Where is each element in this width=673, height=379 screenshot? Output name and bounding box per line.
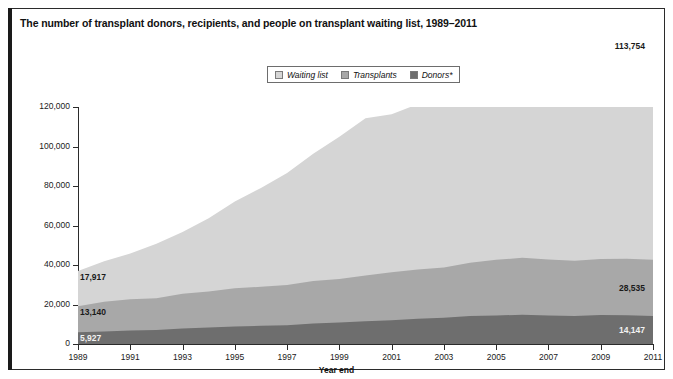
legend-swatch-transplants bbox=[341, 71, 349, 79]
x-tick-2001 bbox=[392, 345, 393, 350]
y-tick-label: 20,000 bbox=[24, 299, 70, 309]
y-tick-label: 120,000 bbox=[24, 101, 70, 111]
x-tick-1999 bbox=[339, 345, 340, 350]
x-axis-line bbox=[78, 344, 654, 345]
x-tick-1997 bbox=[287, 345, 288, 350]
legend-item-donors: Donors* bbox=[410, 70, 453, 80]
legend-label-transplants: Transplants bbox=[353, 70, 397, 80]
y-tick-label: 100,000 bbox=[24, 141, 70, 151]
y-tick-label: 80,000 bbox=[24, 180, 70, 190]
x-tick-label: 1999 bbox=[319, 352, 359, 362]
x-tick-2009 bbox=[601, 345, 602, 350]
x-tick-2003 bbox=[444, 345, 445, 350]
value-label-28535: 28,535 bbox=[619, 283, 645, 293]
y-tick-label: 0 bbox=[24, 338, 70, 348]
x-tick-2005 bbox=[496, 345, 497, 350]
legend-label-waiting-list: Waiting list bbox=[287, 70, 328, 80]
x-tick-1993 bbox=[183, 345, 184, 350]
chart-legend: Waiting list Transplants Donors* bbox=[267, 66, 460, 83]
legend-swatch-waiting-list bbox=[275, 71, 283, 79]
x-tick-2011 bbox=[653, 345, 654, 350]
value-label-5927: 5,927 bbox=[80, 333, 101, 343]
page-title: The number of transplant donors, recipie… bbox=[20, 17, 477, 29]
legend-item-transplants: Transplants bbox=[341, 70, 397, 80]
value-label-13140: 13,140 bbox=[80, 307, 106, 317]
value-label-14147: 14,147 bbox=[619, 325, 645, 335]
x-tick-label: 2011 bbox=[633, 352, 673, 362]
value-label-113754: 113,754 bbox=[615, 41, 645, 51]
x-tick-label: 2005 bbox=[476, 352, 516, 362]
x-tick-1989 bbox=[78, 345, 79, 350]
x-tick-1995 bbox=[235, 345, 236, 350]
legend-swatch-donors bbox=[410, 71, 418, 79]
y-tick-label: 60,000 bbox=[24, 220, 70, 230]
figure-container: The number of transplant donors, recipie… bbox=[0, 0, 673, 379]
y-tick-label: 40,000 bbox=[24, 259, 70, 269]
x-tick-label: 1989 bbox=[58, 352, 98, 362]
x-tick-label: 2007 bbox=[528, 352, 568, 362]
stacked-area-chart bbox=[78, 107, 653, 344]
value-label-17917: 17,917 bbox=[80, 272, 106, 282]
x-tick-label: 2009 bbox=[581, 352, 621, 362]
x-tick-label: 1995 bbox=[215, 352, 255, 362]
x-axis-title: Year end bbox=[0, 365, 673, 375]
x-tick-label: 2001 bbox=[372, 352, 412, 362]
plot-area bbox=[78, 107, 653, 344]
x-tick-label: 1997 bbox=[267, 352, 307, 362]
x-tick-label: 2003 bbox=[424, 352, 464, 362]
x-tick-label: 1991 bbox=[110, 352, 150, 362]
x-tick-1991 bbox=[130, 345, 131, 350]
legend-item-waiting-list: Waiting list bbox=[275, 70, 328, 80]
x-tick-2007 bbox=[548, 345, 549, 350]
legend-label-donors: Donors* bbox=[422, 70, 453, 80]
figure-left-accent-bar bbox=[8, 8, 12, 370]
x-tick-label: 1993 bbox=[163, 352, 203, 362]
